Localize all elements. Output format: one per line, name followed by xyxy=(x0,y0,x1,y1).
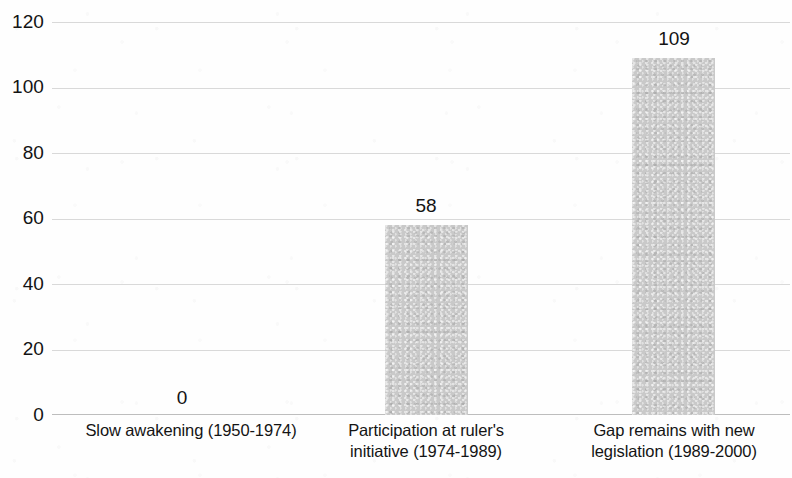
y-tick-label-80: 80 xyxy=(0,143,44,162)
value-label-participation: 58 xyxy=(415,196,436,215)
gridline-120 xyxy=(52,22,790,23)
y-tick-label-120: 120 xyxy=(0,12,44,31)
x-axis: Slow awakening (1950-1974) Participation… xyxy=(52,420,790,478)
y-axis: 120 100 80 60 40 20 0 xyxy=(0,0,44,478)
value-label-gap-remains: 109 xyxy=(658,29,690,48)
x-category-label-gap-remains: Gap remains with new legislation (1989-2… xyxy=(552,420,792,462)
x-category-label-participation: Participation at ruler's initiative (197… xyxy=(306,420,546,462)
bar-participation-rulers-initiative[interactable] xyxy=(385,225,468,415)
y-tick-label-20: 20 xyxy=(0,339,44,358)
x-category-label-slow-awakening: Slow awakening (1950-1974) xyxy=(61,420,321,441)
bar-gap-remains-new-legislation[interactable] xyxy=(632,58,715,415)
value-label-slow-awakening: 0 xyxy=(177,388,188,407)
plot-area xyxy=(52,22,790,415)
y-tick-label-0: 0 xyxy=(0,405,44,424)
bar-chart: 120 100 80 60 40 20 0 0 58 109 Slow awak… xyxy=(0,0,792,478)
y-tick-label-40: 40 xyxy=(0,274,44,293)
y-tick-label-60: 60 xyxy=(0,208,44,227)
y-tick-label-100: 100 xyxy=(0,77,44,96)
